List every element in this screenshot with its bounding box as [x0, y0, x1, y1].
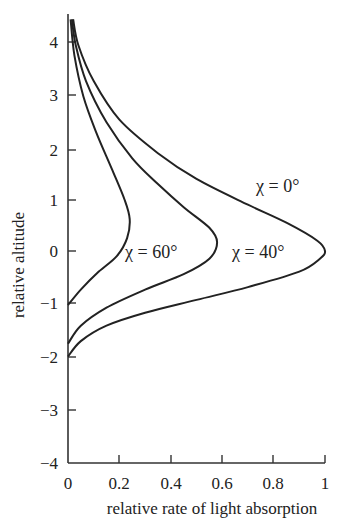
- label-chi-40: χ = 40°: [231, 242, 284, 262]
- curve-chi-40: [68, 19, 217, 343]
- y-tick-1: 1: [50, 191, 59, 210]
- chart: 4 3 2 1 0 −1 −2 −3 −4 0 0.2 0.4 0.6 0.8 …: [0, 0, 358, 530]
- x-ticks: [119, 455, 325, 463]
- x-tick-0.2: 0.2: [108, 474, 129, 493]
- curve-chi-60: [68, 19, 130, 305]
- x-tick-0: 0: [64, 474, 73, 493]
- x-tick-0.6: 0.6: [211, 474, 232, 493]
- y-tick-4: 4: [50, 33, 59, 52]
- y-tick-0: 0: [50, 242, 59, 261]
- y-tick-neg1: −1: [40, 294, 58, 313]
- y-tick-2: 2: [50, 141, 59, 160]
- x-tick-1: 1: [321, 474, 330, 493]
- y-axis-label: relative altitude: [9, 212, 28, 318]
- y-tick-neg3: −3: [40, 401, 58, 420]
- x-tick-0.4: 0.4: [160, 474, 182, 493]
- y-tick-neg4: −4: [40, 454, 59, 473]
- label-chi-60: χ = 60°: [124, 242, 177, 262]
- y-tick-neg2: −2: [40, 348, 58, 367]
- y-tick-labels: 4 3 2 1 0 −1 −2 −3 −4: [40, 33, 59, 473]
- x-tick-labels: 0 0.2 0.4 0.6 0.8 1: [64, 474, 330, 493]
- x-axis-label: relative rate of light absorption: [107, 499, 318, 518]
- label-chi-0: χ = 0°: [255, 176, 299, 196]
- y-tick-3: 3: [50, 86, 59, 105]
- x-tick-0.8: 0.8: [262, 474, 283, 493]
